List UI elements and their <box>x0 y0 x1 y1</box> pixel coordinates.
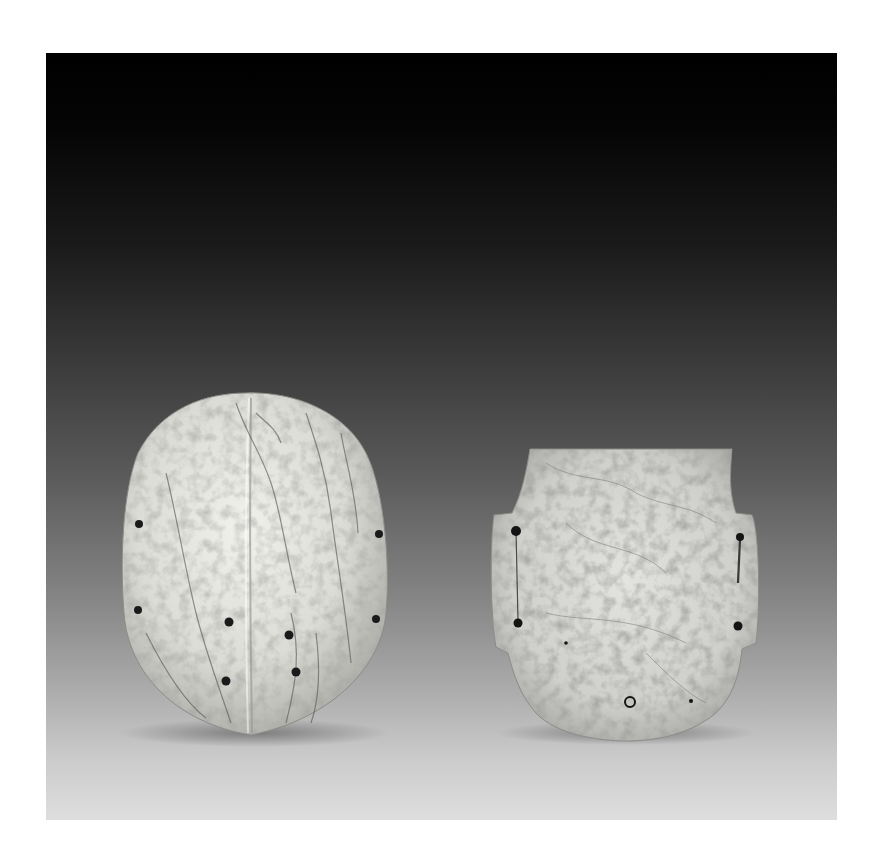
artifact-photograph <box>46 53 837 820</box>
left-artifact <box>122 393 387 735</box>
right-artifact <box>491 449 758 741</box>
